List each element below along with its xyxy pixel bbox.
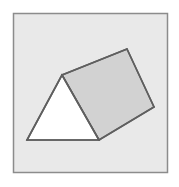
- geometry-figure-svg: [0, 0, 179, 187]
- figure-container: [0, 0, 179, 187]
